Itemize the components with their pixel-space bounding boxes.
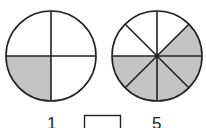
fraction-circles xyxy=(0,0,206,128)
answer-box[interactable] xyxy=(85,116,121,129)
left-numerator: 1 xyxy=(47,115,56,128)
quarters-circle xyxy=(6,11,96,101)
eighths-circle xyxy=(112,11,202,101)
right-numerator: 5 xyxy=(152,115,161,128)
